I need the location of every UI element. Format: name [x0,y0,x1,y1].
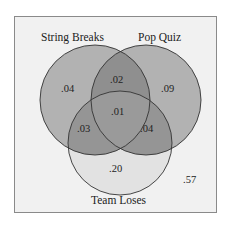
pop-quiz-label: Pop Quiz [138,31,181,44]
string-team-value: .03 [77,123,90,134]
string-quiz-value: .02 [110,74,123,85]
venn-diagram: String Breaks Pop Quiz Team Loses .04 .0… [0,0,230,229]
team-only-value: .20 [109,163,122,174]
team-loses-label: Team Loses [91,194,147,206]
all-three-value: .01 [111,106,124,117]
quiz-team-value: .04 [140,123,154,134]
string-only-value: .04 [61,83,75,94]
outside-value: .57 [183,174,196,185]
string-breaks-label: String Breaks [41,31,104,44]
quiz-only-value: .09 [161,83,174,94]
